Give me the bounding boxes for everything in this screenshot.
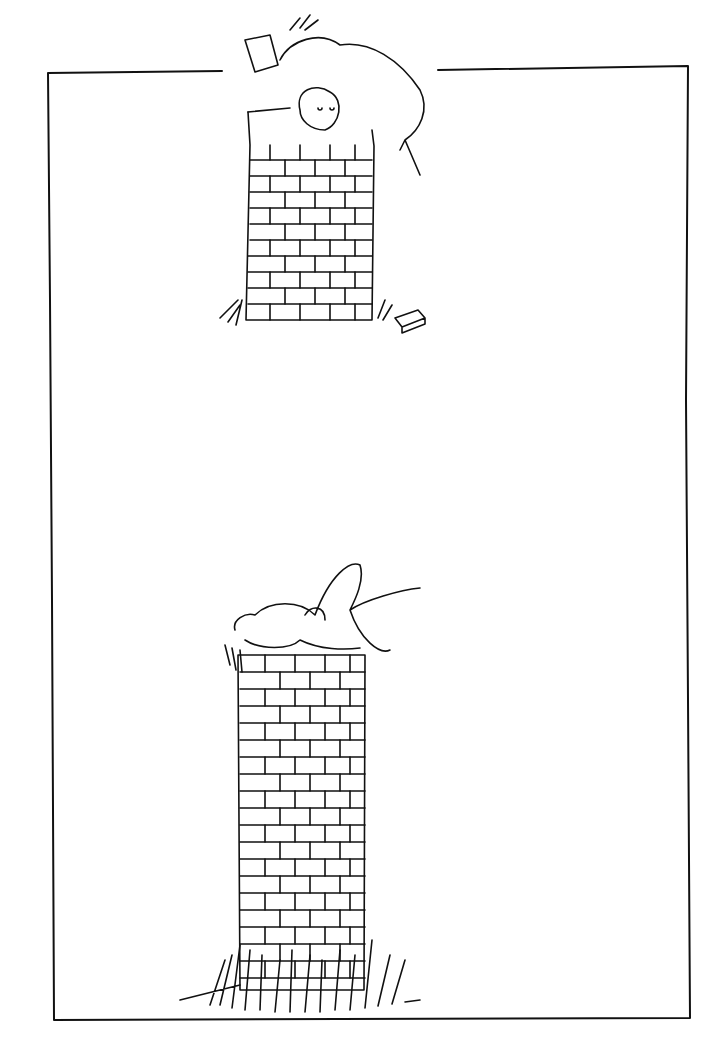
bottom-column — [180, 564, 420, 1012]
top-chimney — [220, 15, 425, 333]
illustration — [0, 0, 704, 1048]
frame — [48, 66, 690, 1020]
